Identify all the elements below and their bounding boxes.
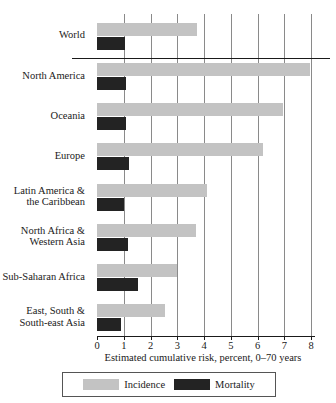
category-label-line: the Caribbean: [0, 196, 85, 208]
category-label-6: Sub-Saharan Africa: [0, 271, 85, 283]
plot-area: [97, 14, 311, 336]
group-separator-rule: [72, 58, 330, 59]
tick-label-7: 7: [274, 340, 294, 351]
tick-label-2: 2: [141, 340, 161, 351]
category-label-line: Europe: [0, 150, 85, 162]
category-label-line: Latin America &: [0, 185, 85, 197]
bar-incidence-7: [97, 304, 165, 317]
bar-incidence-0: [97, 23, 197, 36]
tick-label-1: 1: [114, 340, 134, 351]
category-label-line: Oceania: [0, 110, 85, 122]
bar-incidence-1: [97, 63, 310, 76]
bar-incidence-4: [97, 184, 207, 197]
bar-incidence-3: [97, 143, 263, 156]
category-label-line: East, South &: [0, 305, 85, 317]
bar-mortality-0: [97, 37, 125, 50]
bar-incidence-2: [97, 103, 283, 116]
x-axis-title-text: Estimated cumulative risk, percent, 0–70…: [35, 352, 302, 363]
category-label-line: North Africa &: [0, 225, 85, 237]
bar-mortality-7: [97, 318, 121, 331]
category-label-line: South-east Asia: [0, 317, 85, 329]
bar-mortality-5: [97, 238, 128, 251]
tick-label-4: 4: [194, 340, 214, 351]
tick-label-3: 3: [167, 340, 187, 351]
incidence-swatch-icon: [83, 379, 119, 390]
bar-chart: WorldNorth AmericaOceaniaEuropeLatin Ame…: [0, 0, 336, 403]
category-label-line: Sub-Saharan Africa: [0, 271, 85, 283]
legend-label-incidence: Incidence: [124, 379, 165, 390]
bar-mortality-2: [97, 117, 126, 130]
category-label-0: World: [0, 29, 85, 41]
bar-incidence-5: [97, 224, 196, 237]
bar-mortality-3: [97, 157, 129, 170]
legend-item-incidence: Incidence: [83, 379, 165, 390]
chart-legend: Incidence Mortality: [62, 372, 276, 397]
category-label-3: Europe: [0, 150, 85, 162]
bar-mortality-4: [97, 198, 124, 211]
x-axis-title: Estimated cumulative risk, percent, 0–70…: [0, 352, 336, 363]
bar-incidence-6: [97, 264, 177, 277]
category-label-line: World: [0, 29, 85, 41]
category-label-line: North America: [0, 70, 85, 82]
category-label-2: Oceania: [0, 110, 85, 122]
tick-label-5: 5: [221, 340, 241, 351]
gridline-8: [311, 14, 312, 336]
category-label-7: East, South &South-east Asia: [0, 305, 85, 328]
legend-label-mortality: Mortality: [215, 379, 255, 390]
tick-label-0: 0: [87, 340, 107, 351]
legend-item-mortality: Mortality: [174, 379, 255, 390]
category-label-line: Western Asia: [0, 236, 85, 248]
category-label-1: North America: [0, 70, 85, 82]
tick-label-6: 6: [248, 340, 268, 351]
category-label-4: Latin America &the Caribbean: [0, 185, 85, 208]
bar-mortality-1: [97, 77, 126, 90]
x-axis-line: [97, 336, 315, 337]
bar-mortality-6: [97, 278, 138, 291]
category-label-5: North Africa &Western Asia: [0, 225, 85, 248]
tick-label-8: 8: [301, 340, 321, 351]
mortality-swatch-icon: [174, 379, 210, 390]
